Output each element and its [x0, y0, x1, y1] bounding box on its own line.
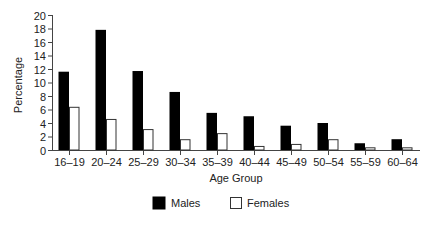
- y-axis-title: Percentage: [12, 57, 24, 113]
- y-tick-label: 6: [40, 104, 46, 116]
- x-axis-title: Age Group: [209, 172, 262, 184]
- bar-males-16–19: [59, 72, 70, 150]
- bar-males-30–34: [170, 92, 181, 150]
- legend-swatch-males: [153, 197, 165, 209]
- bar-females-55–59: [366, 148, 376, 150]
- y-axis: 02468101214161820: [34, 10, 53, 157]
- y-tick-label: 10: [34, 77, 46, 89]
- bar-females-20–24: [107, 119, 117, 150]
- x-tick-label: 30–34: [165, 156, 196, 168]
- bar-females-25–29: [144, 130, 154, 150]
- x-tick-label: 16–19: [54, 156, 85, 168]
- x-tick-label: 45–49: [276, 156, 307, 168]
- x-tick-label: 25–29: [128, 156, 159, 168]
- bar-males-45–49: [281, 126, 292, 150]
- bar-males-50–54: [318, 123, 329, 150]
- legend-label-females: Females: [247, 197, 290, 209]
- bar-females-50–54: [329, 140, 339, 150]
- x-tick-label: 55–59: [350, 156, 381, 168]
- x-tick-label: 20–24: [91, 156, 122, 168]
- bar-males-25–29: [133, 71, 144, 150]
- x-tick-label: 50–54: [313, 156, 344, 168]
- y-tick-label: 18: [34, 23, 46, 35]
- y-tick-label: 16: [34, 37, 46, 49]
- bar-females-40–44: [255, 146, 265, 150]
- bar-females-60–64: [403, 148, 413, 150]
- bar-females-30–34: [181, 140, 191, 150]
- bar-males-40–44: [244, 116, 255, 150]
- bar-males-20–24: [96, 30, 107, 150]
- legend-swatch-females: [231, 198, 242, 209]
- x-tick-label: 35–39: [202, 156, 233, 168]
- bar-males-55–59: [355, 143, 366, 150]
- y-tick-label: 8: [40, 91, 46, 103]
- y-tick-label: 2: [40, 131, 46, 143]
- y-tick-label: 20: [34, 10, 46, 22]
- bar-males-60–64: [392, 139, 403, 150]
- x-axis: 16–1920–2425–2930–3435–3940–4445–4950–54…: [52, 150, 420, 168]
- x-tick-label: 40–44: [239, 156, 270, 168]
- x-tick-label: 60–64: [387, 156, 418, 168]
- bar-males-35–39: [207, 113, 218, 150]
- bar-chart: 02468101214161820 16–1920–2425–2930–3435…: [0, 0, 439, 225]
- y-tick-label: 12: [34, 64, 46, 76]
- y-tick-label: 4: [40, 118, 46, 130]
- bar-females-16–19: [70, 107, 80, 150]
- y-tick-label: 0: [40, 145, 46, 157]
- legend: Males Females: [153, 197, 290, 209]
- bars: [59, 30, 413, 150]
- y-tick-label: 14: [34, 50, 46, 62]
- bar-females-45–49: [292, 144, 302, 150]
- bar-females-35–39: [218, 134, 228, 150]
- legend-label-males: Males: [171, 197, 201, 209]
